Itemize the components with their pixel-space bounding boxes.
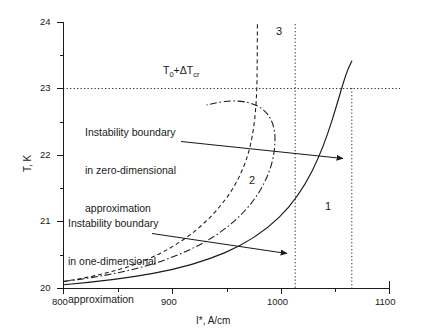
one-dim-annot-line-3: approximation — [68, 293, 158, 306]
one-dim-annot-line-1: Instability boundary — [68, 217, 158, 230]
one-dimensional-annotation: Instability boundary in one-dimensional … — [68, 192, 158, 331]
figure-container: 24 23 22 21 20 800 900 1000 1100 T, K I*… — [0, 0, 425, 336]
x-tick-label-900: 900 — [161, 296, 177, 307]
y-tick-label-22: 22 — [40, 149, 51, 160]
curve-3-label: 3 — [276, 25, 282, 37]
x-tick-label-800: 800 — [52, 296, 68, 307]
tcrit-subscript-cr: cr — [193, 70, 199, 79]
x-tick-label-1100: 1100 — [375, 296, 395, 307]
y-tick-label-21: 21 — [40, 215, 51, 226]
y-tick-label-23: 23 — [40, 82, 51, 93]
curve-1-label: 1 — [325, 200, 331, 212]
y-axis-title: T, K — [22, 155, 33, 172]
zero-dimensional-annotation-arrow — [181, 142, 343, 159]
x-tick-label-1000: 1000 — [267, 296, 288, 307]
y-tick-label-20: 20 — [40, 282, 51, 293]
y-axis-major-ticks — [57, 23, 63, 289]
zero-dim-annot-line-1: Instability boundary — [85, 126, 176, 139]
chart-canvas — [0, 0, 425, 336]
one-dim-annot-line-2: in one-dimensional — [68, 255, 158, 268]
tcrit-delta-T: +ΔT — [174, 64, 194, 76]
zero-dim-annot-line-2: in zero-dimensional — [85, 164, 176, 177]
x-axis-title: I*, A/cm — [196, 315, 230, 326]
y-tick-label-24: 24 — [40, 16, 51, 27]
critical-temperature-label: T0+ΔTcr — [163, 64, 199, 79]
curve-2-label: 2 — [249, 174, 255, 186]
